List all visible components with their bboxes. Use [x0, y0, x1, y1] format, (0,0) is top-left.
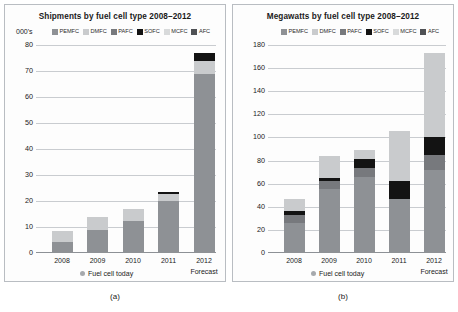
legend-item-afc: AFC — [191, 29, 210, 35]
legend-item-pafc: PAFC — [111, 29, 133, 35]
y-axis-tick-label: 0 — [29, 248, 33, 257]
bar-segment-pemfc — [424, 170, 445, 253]
legend-label: SOFC — [373, 29, 389, 35]
legend-item-pemfc: PEMFC — [281, 29, 308, 35]
gridline — [36, 123, 216, 124]
bar-segment-pemfc — [194, 74, 215, 253]
bar-2008 — [284, 199, 305, 253]
x-axis-tick-label: 2012 — [196, 257, 212, 264]
bar-segment-pemfc — [158, 201, 179, 253]
gridline — [268, 68, 446, 69]
legend-item-dmfc: DMFC — [83, 29, 107, 35]
gridline — [268, 114, 446, 115]
bar-segment-pemfc — [354, 177, 375, 253]
y-axis-tick-label: 20 — [257, 225, 265, 234]
forecast-label: Forecast — [190, 268, 217, 275]
bar-segment-sofc — [389, 181, 410, 198]
bar-2010 — [123, 209, 144, 253]
chart-panel-a: Shipments by fuel cell type 2008–2012 00… — [4, 4, 226, 282]
bar-2012 — [424, 53, 445, 253]
chart-a-legend: PEMFCDMFCPAFCSOFCMCFCAFC — [52, 29, 210, 35]
legend-swatch-icon — [312, 29, 318, 35]
chart-b-title: Megawatts by fuel cell type 2008–2012 — [233, 12, 453, 21]
bar-segment-pemfc — [319, 189, 340, 253]
legend-swatch-icon — [111, 29, 117, 35]
legend-swatch-icon — [52, 29, 58, 35]
chart-panel-b: Megawatts by fuel cell type 2008–2012 PE… — [232, 4, 454, 282]
chart-b-today-marker: Fuel cell today — [311, 270, 364, 277]
gridline — [268, 45, 446, 46]
bar-2008 — [52, 231, 73, 253]
legend-swatch-icon — [420, 29, 426, 35]
y-axis-tick-label: 120 — [253, 110, 265, 119]
legend-item-sofc: SOFC — [137, 29, 160, 35]
legend-label: PEMFC — [60, 29, 80, 35]
bar-segment-pemfc — [389, 199, 410, 253]
legend-item-mcfc: MCFC — [393, 29, 417, 35]
legend-swatch-icon — [164, 29, 170, 35]
chart-a-units-label: 000's — [16, 28, 33, 35]
gridline — [268, 137, 446, 138]
legend-item-mcfc: MCFC — [164, 29, 188, 35]
y-axis-tick-label: 30 — [25, 170, 33, 179]
x-axis-tick-label: 2011 — [391, 257, 406, 264]
bar-segment-dmfc — [194, 61, 215, 74]
bar-segment-sofc — [194, 53, 215, 61]
bar-2011 — [158, 192, 179, 253]
bar-segment-pemfc — [284, 223, 305, 253]
y-axis-tick-label: 160 — [253, 63, 265, 72]
chart-a-today-marker: Fuel cell today — [80, 270, 133, 277]
x-axis-tick-label: 2012 — [426, 257, 442, 264]
legend-item-afc: AFC — [420, 29, 439, 35]
legend-label: SOFC — [144, 29, 160, 35]
bar-segment-sofc — [354, 159, 375, 167]
y-axis-tick-label: 20 — [25, 196, 33, 205]
y-axis-tick-label: 10 — [25, 222, 33, 231]
today-dot-icon — [80, 271, 85, 276]
today-label: Fuel cell today — [319, 270, 364, 277]
figure-root: Shipments by fuel cell type 2008–2012 00… — [0, 0, 458, 312]
legend-label: PEMFC — [289, 29, 309, 35]
chart-b-legend: PEMFCDMFCPAFCSOFCMCFCAFC — [281, 29, 439, 35]
y-axis-tick-label: 50 — [25, 118, 33, 127]
forecast-label: Forecast — [420, 268, 447, 275]
bar-segment-dmfc — [354, 150, 375, 159]
legend-label: MCFC — [400, 29, 416, 35]
legend-swatch-icon — [137, 29, 143, 35]
y-axis-tick-label: 80 — [257, 156, 265, 165]
bar-segment-dmfc — [284, 199, 305, 212]
x-axis-tick-label: 2008 — [286, 257, 302, 264]
legend-label: AFC — [428, 29, 439, 35]
gridline — [268, 91, 446, 92]
bar-segment-dmfc — [123, 209, 144, 221]
chart-a-plot-area: 0102030405060708020082009201020112012For… — [36, 45, 216, 253]
today-label: Fuel cell today — [88, 270, 133, 277]
x-axis-tick-label: 2010 — [356, 257, 372, 264]
legend-swatch-icon — [393, 29, 399, 35]
y-axis-tick-label: 80 — [25, 40, 33, 49]
bar-segment-pafc — [424, 155, 445, 170]
bar-segment-pemfc — [52, 242, 73, 253]
legend-label: AFC — [199, 29, 210, 35]
bar-segment-pafc — [284, 215, 305, 223]
legend-swatch-icon — [191, 29, 197, 35]
y-axis-tick-label: 140 — [253, 87, 265, 96]
legend-label: PAFC — [118, 29, 133, 35]
y-axis-tick-label: 180 — [253, 40, 265, 49]
bar-2009 — [87, 217, 108, 253]
y-axis-tick-label: 40 — [257, 202, 265, 211]
x-axis-tick-label: 2010 — [125, 257, 141, 264]
legend-label: DMFC — [91, 29, 107, 35]
legend-swatch-icon — [83, 29, 89, 35]
panel-a-caption: (a) — [110, 292, 120, 301]
bar-segment-pemfc — [123, 221, 144, 254]
legend-swatch-icon — [281, 29, 287, 35]
y-axis-tick-label: 40 — [25, 144, 33, 153]
legend-item-pemfc: PEMFC — [52, 29, 79, 35]
legend-label: MCFC — [171, 29, 187, 35]
gridline — [36, 149, 216, 150]
gridline — [36, 175, 216, 176]
y-axis-tick-label: 0 — [261, 248, 265, 257]
panel-b-caption: (b) — [338, 292, 348, 301]
legend-item-dmfc: DMFC — [312, 29, 336, 35]
